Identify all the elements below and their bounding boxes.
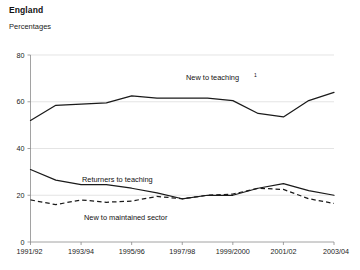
x-tick-label: 1993/94: [68, 247, 94, 256]
series-line-returners-to-teaching: [31, 170, 335, 199]
y-tick-label: 60: [17, 97, 25, 106]
series-footnote-marker: 1: [254, 72, 257, 78]
x-tick-label: 1997/98: [169, 247, 195, 256]
chart-container: England Percentages 020406080 1991/92199…: [0, 0, 360, 270]
x-tick-label: 1995/96: [119, 247, 145, 256]
x-tick-label: 2001/02: [270, 247, 296, 256]
chart-svg: 020406080 1991/921993/941995/961997/9819…: [0, 0, 360, 270]
series-line-new-to-teaching: [31, 92, 335, 120]
series-line-new-to-maintained-sector: [31, 188, 335, 204]
y-tick-label: 0: [21, 238, 25, 247]
x-tick-label: 2003/04: [323, 247, 349, 256]
series-label-new-to-teaching: New to teaching: [186, 73, 239, 82]
x-tick-label: 1991/92: [17, 247, 43, 256]
series-label-new-to-maintained-sector: New to maintained sector: [84, 213, 168, 222]
x-tick-label: 1999/2000: [216, 247, 250, 256]
y-tick-label: 20: [17, 191, 25, 200]
gridlines-group: [31, 55, 335, 195]
y-tick-label: 40: [17, 144, 25, 153]
y-tick-label: 80: [17, 51, 25, 60]
series-label-returners-to-teaching: Returners to teaching: [82, 175, 153, 184]
x-axis-ticks-group: 1991/921993/941995/961997/981999/2000200…: [17, 242, 349, 256]
y-axis-ticks-group: 020406080: [17, 51, 31, 247]
